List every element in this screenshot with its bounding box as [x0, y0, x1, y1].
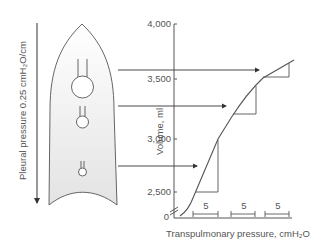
x-interval-label-1: 5 — [203, 200, 208, 211]
lung-shape — [49, 24, 117, 205]
x-axis-label: Transpulmonary pressure, cmH₂O — [166, 228, 310, 239]
y-axis-label: Volume, ml — [154, 108, 165, 155]
pressure-volume-diagram: Pleural pressure 0.25 cmH₂O/cm 4,000 3,5… — [0, 0, 323, 250]
x-interval-label-3: 5 — [275, 200, 280, 211]
x-intervals — [193, 211, 289, 217]
y-tick-3500: 3,500 — [147, 73, 171, 84]
pleural-pressure-label: Pleural pressure 0.25 cmH₂O/cm — [17, 41, 28, 180]
pressure-volume-curve — [180, 60, 294, 216]
y-tick-0: 0 — [164, 211, 169, 222]
y-tick-2500: 2,500 — [147, 186, 171, 197]
y-axis — [170, 24, 178, 218]
x-interval-label-2: 5 — [241, 200, 246, 211]
y-tick-4000: 4,000 — [147, 18, 171, 29]
